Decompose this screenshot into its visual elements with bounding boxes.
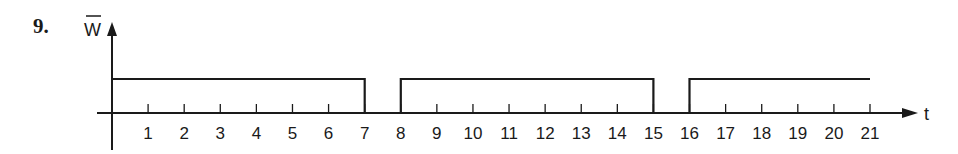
x-ticks: 123456789101112131415161718192021: [143, 104, 879, 143]
x-tick-label: 6: [324, 124, 333, 143]
x-tick-label: 3: [216, 124, 225, 143]
x-tick-label: 11: [500, 124, 518, 143]
x-tick-label: 8: [396, 124, 405, 143]
x-tick-label: 1: [143, 124, 152, 143]
x-tick-label: 9: [432, 124, 441, 143]
x-axis-arrow-icon: [902, 108, 918, 118]
x-tick-label: 12: [536, 124, 555, 143]
x-tick-label: 13: [572, 124, 591, 143]
x-tick-label: 10: [463, 124, 482, 143]
x-tick-label: 20: [824, 124, 843, 143]
y-axis-arrow-icon: [107, 22, 117, 36]
x-tick-label: 18: [752, 124, 771, 143]
y-axis-label: W: [84, 20, 101, 40]
x-tick-label: 14: [608, 124, 627, 143]
x-tick-label: 16: [680, 124, 699, 143]
x-tick-label: 21: [861, 124, 880, 143]
pulse-waveform: [112, 79, 870, 113]
x-tick-label: 19: [788, 124, 807, 143]
waveform-chart: W t 123456789101112131415161718192021: [0, 0, 958, 154]
x-tick-label: 7: [360, 124, 369, 143]
x-axis-label: t: [924, 104, 929, 124]
x-tick-label: 2: [179, 124, 188, 143]
x-tick-label: 17: [716, 124, 735, 143]
x-tick-label: 5: [288, 124, 297, 143]
x-tick-label: 4: [252, 124, 261, 143]
x-tick-label: 15: [644, 124, 663, 143]
